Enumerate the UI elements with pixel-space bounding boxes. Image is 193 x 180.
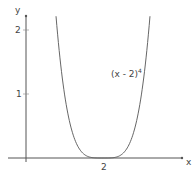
x-axis-arrow-icon [181,157,183,159]
y-axis-arrow-icon [25,15,27,17]
curve-label-base: (x - 2) [111,69,138,79]
y-tick-label-1: 1 [16,89,22,99]
curve-label: (x - 2)4 [111,67,142,79]
curve-label-exponent: 4 [138,67,142,74]
x-tick-label-2: 2 [101,162,107,172]
chart-canvas: y x 2 1 2 (x - 2)4 [0,0,193,180]
axes [8,15,183,162]
y-axis-label: y [15,5,21,15]
y-tick-label-2: 2 [15,25,21,35]
x-axis-label: x [186,157,192,167]
curve-series [56,16,150,158]
